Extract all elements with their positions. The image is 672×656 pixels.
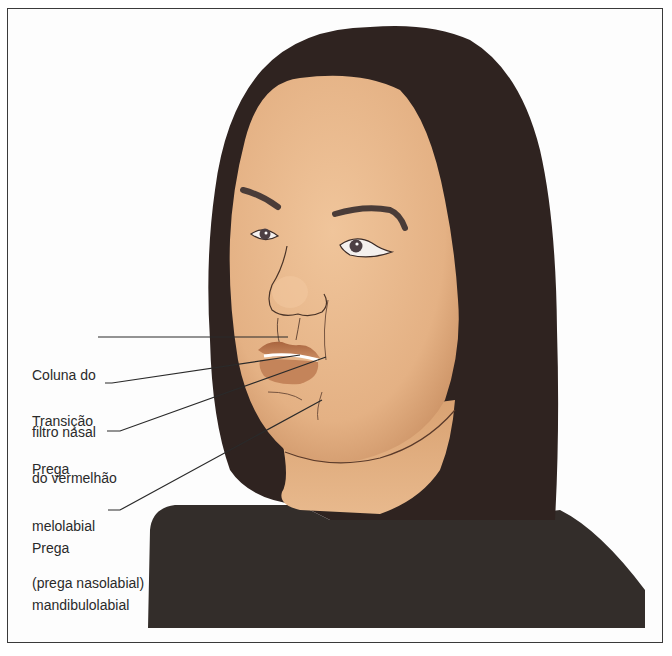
label-marionette-lines: Prega mandibulolabial (linhas de marione…: [32, 501, 129, 656]
clothing: [148, 505, 645, 628]
face: [230, 76, 459, 464]
